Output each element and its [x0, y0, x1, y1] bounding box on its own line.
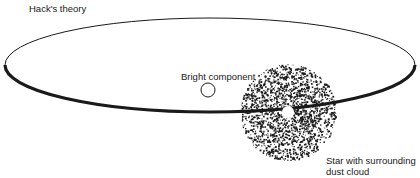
- star-dust-cloud-label: Star with surrounding dust cloud: [326, 155, 416, 177]
- central-star: [282, 106, 294, 118]
- hacks-theory-diagram: Hack's theory Bright component Star with…: [0, 0, 420, 178]
- star-dust-cloud-label-line1: Star with surrounding: [326, 155, 416, 166]
- bright-component-label: Bright component: [181, 71, 255, 82]
- diagram-title: Hack's theory: [29, 3, 86, 14]
- diagram-canvas: [0, 0, 420, 178]
- bright-component: [201, 83, 215, 97]
- orbit-upper-arc: [5, 18, 415, 65]
- star-dust-cloud-label-line2: dust cloud: [326, 166, 416, 177]
